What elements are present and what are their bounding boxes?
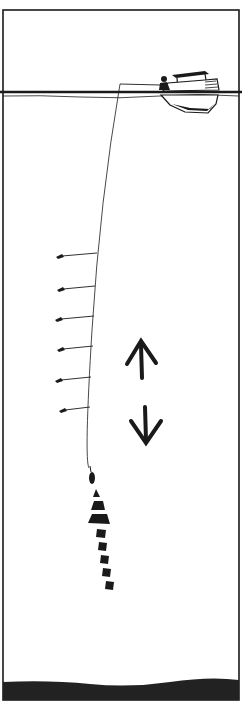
- jigging-diagram: [0, 0, 245, 703]
- hook-icon: [56, 253, 97, 259]
- arrow-down-icon: [131, 407, 161, 443]
- fishing-line: [87, 84, 120, 468]
- hook-icon: [59, 407, 90, 413]
- hook-icon: [55, 377, 91, 383]
- motion-trail: [88, 489, 114, 590]
- hook-icon: [55, 316, 94, 322]
- hook-icon: [57, 346, 93, 352]
- seabed: [3, 678, 239, 700]
- arrow-up-icon: [127, 341, 156, 378]
- sinker-icon: [89, 466, 95, 484]
- dropper-hooks: [55, 253, 97, 413]
- hook-icon: [57, 286, 95, 292]
- diagram-canvas: [0, 0, 245, 703]
- frame-border: [3, 10, 239, 700]
